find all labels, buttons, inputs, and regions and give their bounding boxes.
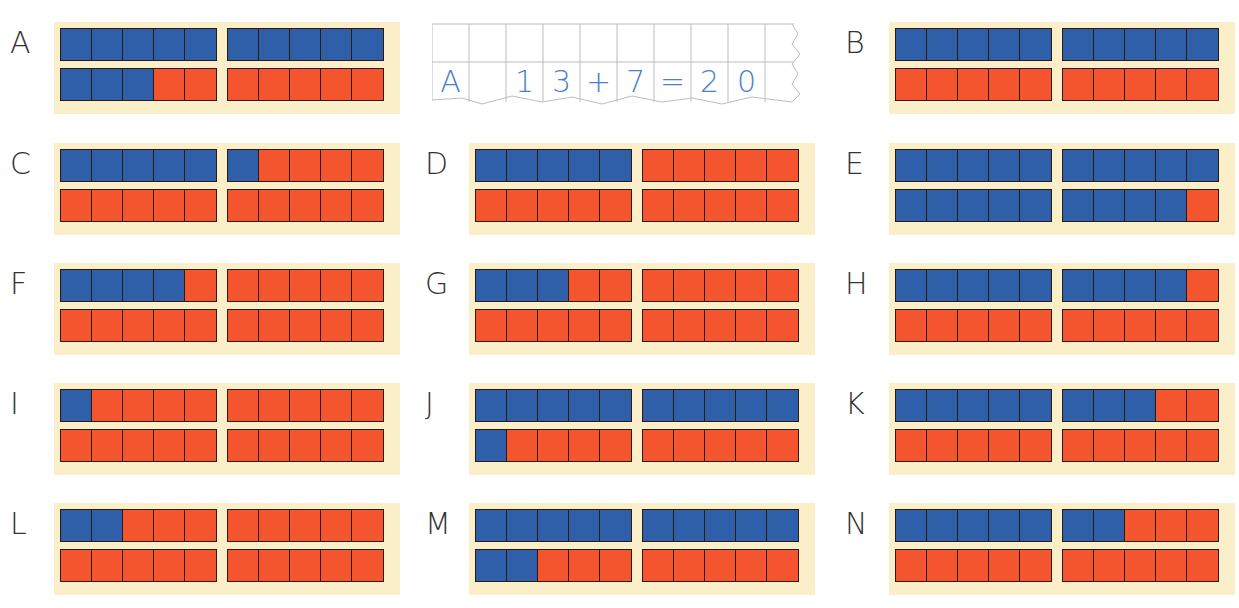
red-counter <box>228 270 259 301</box>
blue-counter <box>476 550 507 581</box>
blue-counter <box>476 430 507 461</box>
red-counter <box>228 390 259 421</box>
frame-row <box>895 509 1219 542</box>
blue-counter <box>958 390 989 421</box>
blue-counter <box>896 150 927 181</box>
blue-counter <box>989 190 1020 221</box>
red-counter <box>321 510 352 541</box>
red-counter <box>674 270 705 301</box>
eq-digit: 2 <box>691 64 728 100</box>
red-counter <box>569 270 600 301</box>
five-group <box>475 269 632 302</box>
five-group <box>642 269 799 302</box>
panel-label: D <box>425 149 448 179</box>
blue-counter <box>1063 390 1094 421</box>
five-group <box>895 68 1052 101</box>
red-counter <box>1094 310 1125 341</box>
five-group <box>642 189 799 222</box>
blue-counter <box>507 390 538 421</box>
blue-counter <box>1063 190 1094 221</box>
five-group <box>227 149 384 182</box>
frame-row <box>475 389 799 422</box>
frame-row <box>895 189 1219 222</box>
frame-row <box>475 549 799 582</box>
blue-counter <box>476 390 507 421</box>
blue-counter <box>321 29 352 60</box>
red-counter <box>600 430 631 461</box>
five-group <box>475 309 632 342</box>
red-counter <box>569 430 600 461</box>
panel-label: A <box>10 28 31 58</box>
red-counter <box>927 69 958 100</box>
blue-counter <box>989 150 1020 181</box>
red-counter <box>259 270 290 301</box>
red-counter <box>705 550 736 581</box>
red-counter <box>736 310 767 341</box>
example-note-grid: A 1 3 + 7 = 2 0 <box>432 22 802 104</box>
blue-counter <box>123 29 154 60</box>
red-counter <box>1187 390 1218 421</box>
blue-counter <box>1094 390 1125 421</box>
five-group <box>642 509 799 542</box>
red-counter <box>154 69 185 100</box>
red-counter <box>1094 550 1125 581</box>
panel-label: E <box>845 149 864 179</box>
blue-counter <box>352 29 383 60</box>
red-counter <box>123 510 154 541</box>
frame-row <box>895 389 1219 422</box>
red-counter <box>290 190 321 221</box>
blue-counter <box>705 390 736 421</box>
red-counter <box>228 430 259 461</box>
blue-counter <box>569 390 600 421</box>
frame-row <box>475 309 799 342</box>
blue-counter <box>1020 150 1051 181</box>
red-counter <box>767 270 798 301</box>
frame-row <box>60 309 384 342</box>
five-group <box>475 509 632 542</box>
blue-counter <box>1156 190 1187 221</box>
red-counter <box>185 550 216 581</box>
red-counter <box>643 310 674 341</box>
red-counter <box>1063 550 1094 581</box>
five-group <box>642 549 799 582</box>
red-counter <box>989 550 1020 581</box>
blue-counter <box>1125 270 1156 301</box>
blue-counter <box>1063 270 1094 301</box>
red-counter <box>1156 310 1187 341</box>
blue-counter <box>92 510 123 541</box>
red-counter <box>154 550 185 581</box>
blue-counter <box>958 150 989 181</box>
blue-counter <box>927 270 958 301</box>
blue-counter <box>507 550 538 581</box>
frame-row <box>60 429 384 462</box>
red-counter <box>123 190 154 221</box>
panel-label: K <box>845 389 865 419</box>
red-counter <box>290 390 321 421</box>
red-counter <box>1156 69 1187 100</box>
red-counter <box>1125 310 1156 341</box>
red-counter <box>767 190 798 221</box>
blue-counter <box>507 150 538 181</box>
red-counter <box>643 270 674 301</box>
red-counter <box>228 69 259 100</box>
five-group <box>1062 149 1219 182</box>
red-counter <box>538 310 569 341</box>
red-counter <box>92 550 123 581</box>
five-group <box>60 389 217 422</box>
red-counter <box>1063 69 1094 100</box>
blue-counter <box>1020 29 1051 60</box>
blue-counter <box>1156 270 1187 301</box>
five-group <box>1062 429 1219 462</box>
blue-counter <box>989 29 1020 60</box>
red-counter <box>674 310 705 341</box>
red-counter <box>600 270 631 301</box>
red-counter <box>1187 190 1218 221</box>
red-counter <box>1156 430 1187 461</box>
five-group <box>895 389 1052 422</box>
red-counter <box>1187 510 1218 541</box>
red-counter <box>600 190 631 221</box>
red-counter <box>185 430 216 461</box>
five-group <box>895 28 1052 61</box>
panel-label: I <box>10 389 19 419</box>
red-counter <box>1020 310 1051 341</box>
